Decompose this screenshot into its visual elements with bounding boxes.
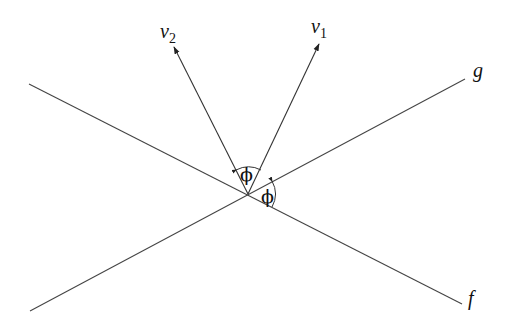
phi-label-lower: ϕ <box>261 185 274 207</box>
vector-angle-diagram: ϕ ϕ v2 v1 g f <box>0 0 505 334</box>
phi-label-upper: ϕ <box>240 163 253 185</box>
vector-v2 <box>174 47 248 194</box>
line-f <box>29 84 462 304</box>
line-g <box>30 79 465 311</box>
label-f: f <box>468 287 476 310</box>
label-g: g <box>473 59 483 82</box>
diagram-canvas: ϕ ϕ v2 v1 g f <box>0 0 505 334</box>
vector-v1 <box>248 44 319 194</box>
label-v1: v1 <box>311 15 327 41</box>
label-v2: v2 <box>160 20 176 46</box>
